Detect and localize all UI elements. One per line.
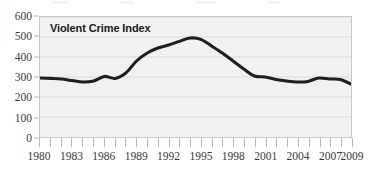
- x-tick-mark: [201, 138, 202, 147]
- chart-title: Violent Crime Index: [50, 22, 151, 34]
- x-tick-mark: [341, 138, 342, 147]
- y-tick-label: 600: [15, 10, 32, 22]
- x-tick-label: 2007: [319, 150, 342, 162]
- x-tick-mark: [266, 138, 267, 147]
- x-tick-mark: [136, 138, 137, 147]
- x-tick-label: 1992: [157, 150, 180, 162]
- x-tick-label: 1995: [189, 150, 212, 162]
- x-tick-mark: [330, 138, 331, 147]
- x-tick-mark: [61, 138, 62, 147]
- x-tick-mark: [233, 138, 234, 147]
- x-tick-label: 2004: [287, 150, 310, 162]
- x-tick-mark: [71, 138, 72, 147]
- x-axis: 1980198319861989199219951998200120042007…: [0, 138, 371, 176]
- plot-area: Violent Crime Index: [39, 16, 352, 138]
- x-tick-mark: [93, 138, 94, 147]
- x-tick-mark: [222, 138, 223, 147]
- x-tick-mark: [50, 138, 51, 147]
- scan-artifact: [52, 1, 68, 4]
- x-tick-label: 1986: [92, 150, 115, 162]
- x-tick-mark: [104, 138, 105, 147]
- x-tick-mark: [309, 138, 310, 147]
- x-tick-mark: [255, 138, 256, 147]
- x-tick-mark: [298, 138, 299, 147]
- x-tick-mark: [125, 138, 126, 147]
- x-tick-mark: [244, 138, 245, 147]
- x-tick-mark: [287, 138, 288, 147]
- y-tick-label: 400: [15, 51, 32, 63]
- x-tick-mark: [276, 138, 277, 147]
- x-tick-mark: [115, 138, 116, 147]
- y-tick-label: 300: [15, 71, 32, 83]
- x-tick-mark: [212, 138, 213, 147]
- scan-artifact: [196, 1, 216, 4]
- x-tick-mark: [39, 138, 40, 147]
- x-tick-label: 1983: [60, 150, 83, 162]
- plot-canvas: [40, 17, 351, 137]
- x-tick-label: 1998: [222, 150, 245, 162]
- x-tick-mark: [158, 138, 159, 147]
- x-tick-mark: [352, 138, 353, 147]
- violent-crime-index-chart: 6005004003002001000 Violent Crime Index …: [0, 0, 371, 176]
- x-tick-mark: [82, 138, 83, 147]
- y-tick-label: 100: [15, 112, 32, 124]
- y-tick-label: 500: [15, 30, 32, 42]
- x-tick-label: 1980: [28, 150, 51, 162]
- x-tick-label: 2009: [341, 150, 364, 162]
- x-tick-mark: [179, 138, 180, 147]
- x-tick-mark: [147, 138, 148, 147]
- x-tick-mark: [190, 138, 191, 147]
- x-tick-label: 2001: [254, 150, 277, 162]
- x-tick-label: 1989: [125, 150, 148, 162]
- x-tick-mark: [169, 138, 170, 147]
- y-tick-label: 200: [15, 91, 32, 103]
- scan-artifact: [120, 1, 134, 4]
- scan-artifact: [268, 1, 280, 4]
- x-tick-mark: [320, 138, 321, 147]
